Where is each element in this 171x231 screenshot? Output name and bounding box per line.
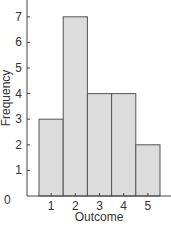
bar-outcome-4 bbox=[112, 94, 136, 196]
x-tick-label: 1 bbox=[48, 199, 55, 213]
x-axis-label: Outcome bbox=[75, 210, 124, 224]
bar-outcome-5 bbox=[136, 145, 160, 196]
y-axis-label: Frequency bbox=[0, 70, 13, 127]
y-tick-label: 5 bbox=[15, 61, 22, 75]
bar-outcome-2 bbox=[63, 17, 87, 196]
bar-outcome-1 bbox=[39, 119, 63, 196]
y-tick-label: 2 bbox=[15, 138, 22, 152]
y-tick-label: 0 bbox=[4, 193, 11, 207]
histogram-chart: 01234567 12345 Outcome Frequency bbox=[0, 0, 171, 231]
y-tick-label: 3 bbox=[15, 112, 22, 126]
y-tick-label: 4 bbox=[15, 87, 22, 101]
y-tick-label: 1 bbox=[15, 163, 22, 177]
y-tick-label: 6 bbox=[15, 35, 22, 49]
bar-outcome-3 bbox=[87, 94, 111, 196]
x-tick-label: 5 bbox=[145, 199, 152, 213]
y-tick-label: 7 bbox=[15, 10, 22, 24]
bars-group bbox=[39, 17, 160, 196]
